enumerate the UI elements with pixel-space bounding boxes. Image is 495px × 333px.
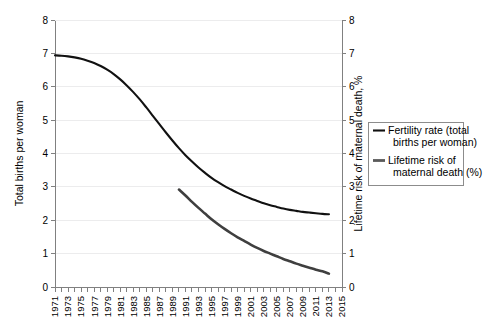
y-tick-label: 6	[42, 81, 48, 92]
x-tick-label: 2015	[336, 296, 347, 317]
series-line-2	[179, 190, 329, 274]
data-series	[55, 55, 329, 273]
x-tick-label: 2011	[310, 296, 321, 316]
x-axis-ticks	[55, 287, 342, 292]
chart-legend: Fertility rate (totalbirths per woman)Li…	[368, 122, 482, 185]
legend-label-2-line2: maternal death (%)	[393, 166, 482, 178]
y-axis-right-ticks	[342, 20, 346, 287]
legend-label-1-line2: births per woman)	[393, 136, 477, 148]
legend-label-1-line1: Fertility rate (total	[388, 124, 469, 136]
y-tick-label: 5	[42, 115, 48, 126]
x-tick-label: 1987	[154, 296, 165, 317]
x-tick-label: 1985	[141, 296, 152, 317]
x-tick-label: 1983	[128, 296, 139, 317]
y2-tick-label: 0	[349, 282, 355, 293]
legend-label-2-line1: Lifetime risk of	[388, 154, 456, 166]
y-tick-label: 4	[42, 148, 48, 159]
x-tick-label: 1993	[193, 296, 204, 317]
series-line-1	[55, 55, 329, 214]
x-axis-tick-labels: 1971197319751977197919811983198519871989…	[49, 296, 347, 317]
y-tick-label: 2	[42, 215, 48, 226]
y-tick-label: 3	[42, 181, 48, 192]
x-tick-label: 1989	[167, 296, 178, 317]
chart-container: 1971197319751977197919811983198519871989…	[0, 0, 495, 333]
x-tick-label: 1995	[206, 296, 217, 317]
x-tick-label: 1997	[219, 296, 230, 317]
y-axis-left-tick-labels: 012345678	[42, 15, 48, 293]
dual-axis-line-chart: 1971197319751977197919811983198519871989…	[0, 0, 495, 333]
x-tick-label: 1973	[62, 296, 73, 317]
y2-tick-label: 1	[349, 248, 355, 259]
x-tick-label: 2003	[258, 296, 269, 317]
x-tick-label: 1971	[49, 296, 60, 317]
x-tick-label: 2007	[284, 296, 295, 317]
x-tick-label: 1981	[115, 296, 126, 317]
x-tick-label: 2009	[297, 296, 308, 317]
x-tick-label: 2001	[245, 296, 256, 317]
y2-tick-label: 8	[349, 15, 355, 26]
y-tick-label: 7	[42, 48, 48, 59]
x-tick-label: 1975	[75, 296, 86, 317]
y-tick-label: 1	[42, 248, 48, 259]
x-tick-label: 1999	[232, 296, 243, 317]
y-tick-label: 0	[42, 282, 48, 293]
x-tick-label: 1977	[89, 296, 100, 317]
y-tick-label: 8	[42, 15, 48, 26]
x-tick-label: 2005	[271, 296, 282, 317]
y2-tick-label: 7	[349, 48, 355, 59]
gridlines	[55, 20, 342, 287]
x-tick-label: 1979	[102, 296, 113, 317]
x-tick-label: 2013	[323, 296, 334, 317]
y-axis-left-title: Total births per woman	[13, 101, 25, 207]
x-tick-label: 1991	[180, 296, 191, 317]
y-axis-left-ticks	[51, 20, 55, 287]
y-axis-right-title: Lifetime risk of maternal death, %	[352, 76, 364, 232]
